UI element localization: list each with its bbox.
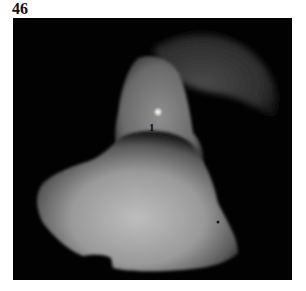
figure-number: 46	[12, 0, 28, 18]
label-marker-1: 1	[149, 122, 155, 133]
tissue-illustration	[13, 18, 292, 280]
endoscopic-image: 1	[13, 18, 292, 280]
